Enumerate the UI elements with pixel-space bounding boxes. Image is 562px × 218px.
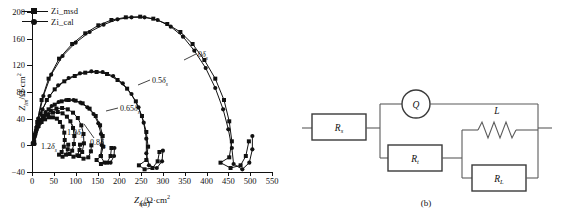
legend: Zi_msd Zi_cal (22, 6, 78, 27)
inductor-l-coil (478, 122, 516, 138)
panel-b-caption: (b) (421, 198, 432, 208)
x-tick-label-550: 550 (266, 177, 279, 186)
x-tick-label-150: 150 (91, 177, 104, 186)
data-curves (32, 12, 272, 172)
series-0-5-s-zi-cal (32, 69, 165, 170)
x-tick-label-0: 0 (30, 177, 34, 186)
cpe-q-label: Q (413, 100, 420, 110)
annotation-05ds: 0.5δs (152, 76, 168, 87)
x-tick-label-350: 350 (178, 177, 191, 186)
x-tick-label-400: 400 (200, 177, 213, 186)
x-tick-label-250: 250 (135, 177, 148, 186)
y-tick-label-160: 160 (12, 34, 25, 43)
legend-marker-circle-icon (22, 17, 48, 26)
x-tick-label-450: 450 (222, 177, 235, 186)
annotation-10ds: 1.0δs (67, 128, 83, 139)
legend-marker-square-icon (22, 7, 48, 16)
annotation-12ds: 1.2δs (41, 142, 57, 153)
x-axis-line (32, 172, 272, 173)
annotation-08ds: 0.8δs (90, 138, 106, 149)
y-tick-label-0: 0 (21, 141, 25, 150)
annotation-065ds: 0.65δs (120, 104, 140, 115)
panel-a-caption: (a) (140, 198, 150, 208)
x-tick-label-50: 50 (50, 177, 59, 186)
legend-label-zi-cal: Zi_cal (51, 17, 74, 28)
plot-area: 200 160 120 80 40 0 −40 0 50 100 150 200 (32, 12, 272, 172)
y-tick-label-neg40: −40 (12, 168, 25, 177)
x-tick-label-100: 100 (69, 177, 82, 186)
legend-item-zi-msd: Zi_msd (22, 6, 78, 17)
circuit-diagram: Rs Q Rt L RL (290, 0, 562, 218)
legend-item-zi-cal: Zi_cal (22, 17, 78, 28)
y-tick-label-40: 40 (17, 114, 26, 123)
annotation-0ds: 0δs (198, 50, 208, 61)
x-tick-label-500: 500 (244, 177, 257, 186)
panel-a-nyquist-plot: 200 160 120 80 40 0 −40 0 50 100 150 200 (0, 0, 290, 218)
legend-label-zi-msd: Zi_msd (51, 6, 78, 17)
panel-b-equivalent-circuit: Rs Q Rt L RL (290, 0, 562, 218)
y-axis-label: Zim/Ω·cm2 (16, 73, 29, 110)
y-tick-label-120: 120 (12, 61, 25, 70)
x-tick-label-300: 300 (157, 177, 170, 186)
x-tick-label-200: 200 (113, 177, 126, 186)
inductor-l-label: L (493, 106, 499, 116)
figure-container: 200 160 120 80 40 0 −40 0 50 100 150 200 (0, 0, 562, 218)
